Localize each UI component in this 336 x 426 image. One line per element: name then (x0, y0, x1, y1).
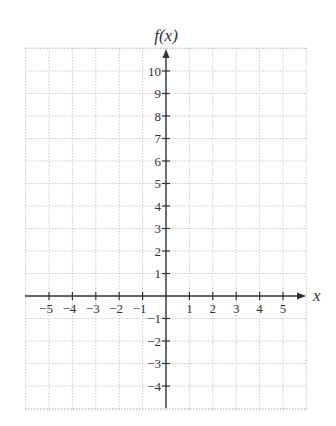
y-tick-label: 8 (155, 109, 162, 124)
x-tick-label: 1 (186, 301, 193, 316)
y-tick-label: −4 (147, 379, 161, 394)
y-tick-label: 1 (155, 266, 162, 281)
x-axis-title: x (312, 286, 321, 305)
y-tick-label: 4 (155, 199, 162, 214)
y-tick-label: 10 (148, 64, 161, 79)
y-tick-label: 9 (155, 86, 162, 101)
x-tick-label: 2 (210, 301, 217, 316)
x-axis-arrow-icon (297, 293, 306, 300)
x-tick-label: −4 (62, 301, 76, 316)
x-tick-label: −3 (86, 301, 100, 316)
y-tick-label: 2 (155, 244, 162, 259)
coordinate-plane: −5−4−3−2−112345 −4−3−2−112345678910 f(x)… (0, 0, 336, 426)
y-axis-title: f(x) (154, 26, 178, 45)
y-tick-label: −1 (147, 311, 161, 326)
x-tick-label: 3 (233, 301, 240, 316)
x-tick-label: −5 (39, 301, 53, 316)
x-tick-label: −2 (109, 301, 123, 316)
x-tick-label: 4 (256, 301, 263, 316)
y-tick-label: −2 (147, 334, 161, 349)
y-axis-arrow-icon (163, 49, 170, 58)
y-tick-label: 6 (155, 154, 162, 169)
y-tick-label: −3 (147, 356, 161, 371)
y-tick-label: 7 (155, 131, 162, 146)
x-tick-label: 5 (280, 301, 287, 316)
x-tick-label: −1 (133, 301, 147, 316)
y-tick-label: 5 (155, 176, 162, 191)
y-tick-label: 3 (155, 221, 162, 236)
